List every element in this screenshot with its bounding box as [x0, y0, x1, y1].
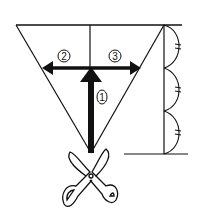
svg-text:3: 3 [112, 51, 118, 62]
svg-text:1: 1 [99, 92, 105, 103]
step-2-label: 2 [58, 50, 70, 62]
fold-cut-diagram: 2 3 1 [0, 0, 197, 221]
step-1-label: 1 [97, 90, 107, 104]
step-3-label: 3 [109, 50, 121, 62]
svg-text:2: 2 [61, 51, 67, 62]
equal-division-arcs [164, 25, 181, 154]
triangle-left-side [16, 25, 91, 153]
triangle-right-side [91, 25, 164, 153]
scissors-icon [63, 149, 118, 206]
